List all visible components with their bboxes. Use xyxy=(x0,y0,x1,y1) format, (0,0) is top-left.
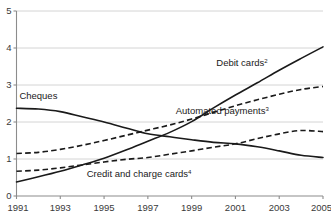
x-tick-label-2003: 2003 xyxy=(269,202,290,213)
x-tick-label-1993: 1993 xyxy=(50,202,71,213)
series-label-text: Automated payments xyxy=(176,105,266,116)
series-label-cheques: Cheques xyxy=(19,90,57,101)
series-lines xyxy=(17,47,324,182)
y-tick-label-3: 3 xyxy=(6,79,11,90)
series-label-credit-and-charge-cards: Credit and charge cards4 xyxy=(87,168,192,179)
chart-canvas: 012345 19911993199519971999200120032005 … xyxy=(0,0,331,220)
series-label-superscript: 2 xyxy=(264,58,268,64)
series-line-debit-cards xyxy=(17,47,324,182)
series-label-debit-cards: Debit cards2 xyxy=(216,57,268,68)
series-line-automated-payments xyxy=(17,86,324,153)
series-label-text: Debit cards xyxy=(216,57,264,68)
x-tick-label-1999: 1999 xyxy=(181,202,202,213)
x-tick-label-2005: 2005 xyxy=(311,202,331,213)
y-tick-label-2: 2 xyxy=(6,116,11,127)
y-tick-label-0: 0 xyxy=(6,190,11,201)
x-tick-label-1997: 1997 xyxy=(137,202,158,213)
y-axis-tick-labels: 012345 xyxy=(6,5,11,201)
series-label-text: Cheques xyxy=(19,90,57,101)
y-tick-label-4: 4 xyxy=(6,42,11,53)
x-tick-label-2001: 2001 xyxy=(225,202,246,213)
x-axis-tick-labels: 19911993199519971999200120032005 xyxy=(7,202,331,213)
series-label-automated-payments: Automated payments3 xyxy=(176,105,270,116)
series-annotations: ChequesDebit cards2Automated payments3Cr… xyxy=(19,57,269,179)
line-chart: 012345 19911993199519971999200120032005 … xyxy=(0,0,331,220)
series-label-superscript: 4 xyxy=(188,169,192,175)
y-tick-label-1: 1 xyxy=(6,153,11,164)
series-label-text: Credit and charge cards xyxy=(87,168,189,179)
x-tick-label-1995: 1995 xyxy=(94,202,115,213)
series-label-superscript: 3 xyxy=(266,106,270,112)
x-tick-label-1991: 1991 xyxy=(7,202,28,213)
y-tick-label-5: 5 xyxy=(6,5,11,16)
